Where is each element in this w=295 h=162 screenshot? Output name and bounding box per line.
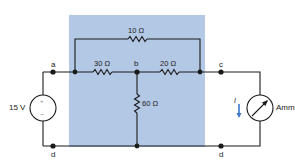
current-label: I — [234, 97, 236, 104]
node-a-dot — [50, 69, 55, 74]
node-c-dot — [218, 69, 223, 74]
junction-left-dot — [73, 70, 78, 75]
node-b-dot — [134, 69, 139, 74]
node-d-right-dot — [218, 143, 223, 148]
source-voltage-label: 15 V — [9, 104, 25, 112]
junction-right-dot — [198, 70, 203, 75]
resistor-30-label: 30 Ω — [94, 60, 110, 68]
node-b-label: b — [134, 60, 138, 68]
node-d-left-label: d — [51, 151, 55, 159]
circuit-diagram: a b c d d 10 Ω 30 Ω 20 Ω 60 Ω 15 V + − A… — [0, 0, 295, 162]
node-d-right-label: d — [219, 151, 223, 159]
resistor-20-label: 20 Ω — [160, 60, 176, 68]
node-a-label: a — [51, 61, 55, 69]
resistor-60-label: 60 Ω — [142, 100, 158, 108]
source-minus-sign: − — [40, 111, 44, 118]
circuit-schematic — [0, 0, 295, 162]
ammeter-label: Ammeter — [276, 104, 295, 112]
node-d-left-dot — [50, 143, 55, 148]
resistor-10-label: 10 Ω — [128, 27, 144, 35]
source-plus-sign: + — [40, 98, 44, 104]
node-c-label: c — [219, 61, 223, 69]
junction-bottom-dot — [135, 144, 140, 149]
current-arrow-icon — [237, 104, 242, 118]
